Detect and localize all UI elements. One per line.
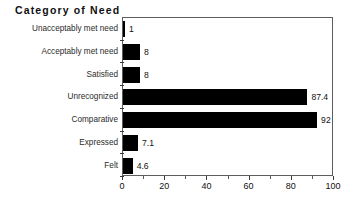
bar [123,44,140,60]
x-axis-tick-label: 100 [325,182,340,191]
bar-value-label: 4.6 [137,161,149,170]
bar [123,158,133,174]
bar [123,112,317,128]
x-axis-tick-label: 40 [201,182,211,191]
x-axis-tick [333,176,334,180]
bar-value-label: 8 [144,70,149,79]
x-axis-tick [291,176,292,180]
category-label: Acceptably met need [42,48,118,56]
x-axis-tick-label: 80 [286,182,296,191]
x-axis-tick-label: 20 [159,182,169,191]
x-axis-tick-label: 0 [119,182,124,191]
category-label: Satisfied [87,71,118,79]
bar-row: Comparative92 [123,109,332,132]
bar-value-label: 87.4 [311,93,328,102]
x-axis-tick [249,176,250,180]
category-label: Expressed [79,139,118,147]
bar-chart-figure: Category of Need Unacceptably met need1A… [0,0,355,205]
x-axis-minor-tick [143,176,144,179]
x-axis: 020406080100 [122,176,333,204]
category-label: Felt [104,162,118,170]
bar [123,89,307,105]
x-axis-tick [206,176,207,180]
bar-row: Unrecognized87.4 [123,86,332,109]
x-axis-minor-tick [312,176,313,179]
bar [123,67,140,83]
x-axis-tick [122,176,123,180]
bar-value-label: 7.1 [142,139,154,148]
bar-row: Satisfied8 [123,63,332,86]
bar-value-label: 1 [129,25,134,34]
bar-row: Felt4.6 [123,154,332,177]
bar-value-label: 8 [144,48,149,57]
x-axis-minor-tick [228,176,229,179]
bar-row: Unacceptably met need1 [123,18,332,41]
bar-value-label: 92 [321,116,331,125]
chart-title: Category of Need [15,4,120,16]
bar [123,21,125,37]
bar-row: Acceptably met need8 [123,41,332,64]
category-label: Comparative [72,116,118,124]
x-axis-minor-tick [270,176,271,179]
category-label: Unrecognized [67,93,118,101]
bar-row: Expressed7.1 [123,132,332,155]
category-label: Unacceptably met need [32,25,118,33]
x-axis-tick [164,176,165,180]
bar [123,135,138,151]
plot-area: Unacceptably met need1Acceptably met nee… [122,17,333,176]
x-axis-tick-label: 60 [244,182,254,191]
x-axis-minor-tick [185,176,186,179]
